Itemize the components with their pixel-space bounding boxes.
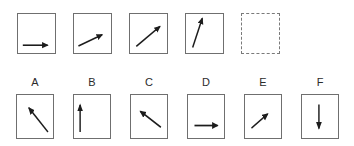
option-label-A: A xyxy=(31,76,38,88)
arrow-icon-up-steep xyxy=(186,14,223,53)
option-box-F[interactable] xyxy=(301,94,339,139)
arrow-icon-right xyxy=(18,14,55,53)
sequence-box-4 xyxy=(185,13,224,54)
sequence-cell-4 xyxy=(185,13,224,54)
sequence-row xyxy=(0,0,354,54)
options-row: ABCDEF xyxy=(0,54,354,139)
option-box-D[interactable] xyxy=(187,94,225,139)
sequence-box-1 xyxy=(17,13,56,54)
option-box-E[interactable] xyxy=(244,94,282,139)
arrow-icon-right xyxy=(188,95,224,138)
option-label-F: F xyxy=(317,76,324,88)
sequence-box-3 xyxy=(129,13,168,54)
arrow-icon-up-right xyxy=(130,14,167,53)
arrow-icon-up-left xyxy=(131,95,167,138)
arrow-icon-up-right-shallow xyxy=(74,14,111,53)
option-cell-E: E xyxy=(244,76,282,139)
option-label-D: D xyxy=(202,76,210,88)
sequence-box-5-missing xyxy=(241,13,280,54)
option-cell-D: D xyxy=(187,76,225,139)
puzzle-canvas: ABCDEF xyxy=(0,0,354,146)
option-cell-F: F xyxy=(301,76,339,139)
arrow-icon-down xyxy=(302,95,338,138)
option-box-C[interactable] xyxy=(130,94,168,139)
sequence-cell-2 xyxy=(73,13,112,54)
option-cell-C: C xyxy=(130,76,168,139)
option-cell-A: A xyxy=(16,76,54,139)
sequence-box-2 xyxy=(73,13,112,54)
option-label-C: C xyxy=(145,76,153,88)
sequence-cell-3 xyxy=(129,13,168,54)
arrow-icon-up xyxy=(74,95,110,138)
option-label-B: B xyxy=(88,76,95,88)
arrow-icon-up-left-steep xyxy=(17,95,53,138)
arrow-icon-up-right xyxy=(245,95,281,138)
option-cell-B: B xyxy=(73,76,111,139)
sequence-cell-5 xyxy=(241,13,280,54)
sequence-cell-1 xyxy=(17,13,56,54)
option-box-B[interactable] xyxy=(73,94,111,139)
option-box-A[interactable] xyxy=(16,94,54,139)
option-label-E: E xyxy=(259,76,266,88)
